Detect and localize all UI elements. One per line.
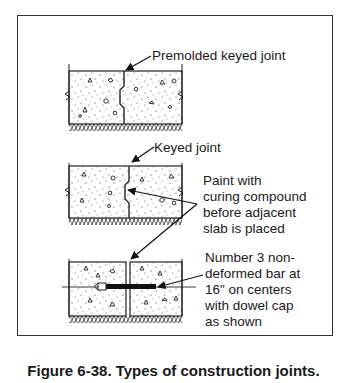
panel-premolded-keyed-joint — [65, 56, 183, 131]
note-dowel-line-3: 16" on centers — [205, 282, 292, 298]
note-dowel-line-5: as shown — [205, 314, 262, 330]
panel-doweled-joint — [62, 259, 203, 323]
note-paint-line-1: Paint with — [203, 173, 262, 189]
note-paint-line-2: curing compound — [203, 189, 307, 205]
figure-caption: Figure 6-38. Types of construction joint… — [0, 362, 347, 379]
note-dowel-line-4: with dowel cap — [205, 298, 294, 314]
note-paint-line-3: before adjacent — [203, 205, 296, 221]
panel-keyed-joint — [65, 147, 197, 259]
note-paint-line-4: slab is placed — [203, 221, 285, 237]
label-premolded-keyed-joint: Premolded keyed joint — [152, 48, 286, 64]
note-dowel-line-2: deformed bar at — [205, 266, 300, 282]
note-dowel-line-1: Number 3 non- — [205, 250, 295, 266]
label-keyed-joint: Keyed joint — [154, 140, 221, 156]
